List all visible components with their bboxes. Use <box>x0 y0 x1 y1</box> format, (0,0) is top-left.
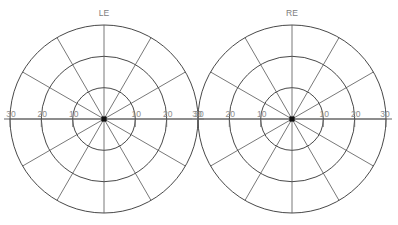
spoke-240-re <box>245 119 292 200</box>
polar-chart-right-eye: RE <box>192 8 392 213</box>
tick-label-left-10-le: 10 <box>69 109 79 119</box>
spoke-300-re <box>292 119 339 200</box>
spoke-300-le <box>104 119 151 200</box>
spoke-210-re <box>211 119 292 166</box>
spoke-60-re <box>292 38 339 119</box>
tick-label-left-30-le: 30 <box>6 109 16 119</box>
tick-label-left-30-re: 30 <box>194 109 204 119</box>
spoke-330-le <box>104 119 185 166</box>
spoke-240-le <box>57 119 104 200</box>
chart-stage: LE <box>0 0 398 225</box>
spoke-150-re <box>211 72 292 119</box>
spoke-30-re <box>292 72 373 119</box>
spoke-210-le <box>23 119 104 166</box>
tick-label-right-10-re: 10 <box>320 109 330 119</box>
spoke-60-le <box>104 38 151 119</box>
tick-label-right-30-re: 30 <box>380 109 390 119</box>
tick-label-left-10-re: 10 <box>257 109 267 119</box>
polar-charts-canvas: LE <box>0 0 398 225</box>
center-fixation-dot-re <box>289 116 294 121</box>
spoke-30-le <box>104 72 185 119</box>
polar-chart-left-eye: LE <box>4 8 204 213</box>
spoke-120-re <box>245 38 292 119</box>
spoke-120-le <box>57 38 104 119</box>
tick-label-right-20-le: 20 <box>163 109 173 119</box>
spoke-150-le <box>23 72 104 119</box>
tick-label-right-20-re: 20 <box>351 109 361 119</box>
tick-label-left-20-re: 20 <box>226 109 236 119</box>
tick-label-left-20-le: 20 <box>38 109 48 119</box>
chart-title-le: LE <box>99 8 110 18</box>
center-fixation-dot-le <box>101 116 106 121</box>
spoke-330-re <box>292 119 373 166</box>
tick-label-right-10-le: 10 <box>132 109 142 119</box>
chart-title-re: RE <box>286 8 298 18</box>
